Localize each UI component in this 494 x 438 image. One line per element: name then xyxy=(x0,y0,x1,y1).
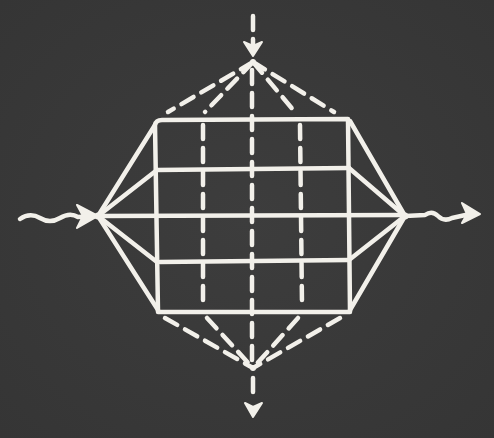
bottom-apex-node xyxy=(250,365,256,371)
diagram-canvas xyxy=(0,0,494,438)
right-vertex-node xyxy=(402,213,409,220)
arrowhead-down-icon xyxy=(245,403,262,417)
left-vertex-node xyxy=(95,213,102,220)
bottom-outflow-arrow xyxy=(245,378,262,417)
top-apex-node xyxy=(250,59,256,65)
chalkboard-diagram: Chalk drawing on blackboard: a rectangul… xyxy=(0,0,494,438)
output-wave-arrow xyxy=(405,203,480,223)
top-inflow-arrow xyxy=(244,16,262,56)
input-wave-arrow xyxy=(20,205,98,228)
